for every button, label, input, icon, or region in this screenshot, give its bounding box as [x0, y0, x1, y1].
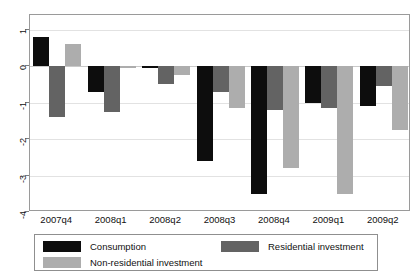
bar-2008q3-series-2	[229, 66, 245, 108]
bar-group-2007q4	[33, 15, 81, 210]
bar-group-2008q1	[88, 15, 136, 210]
bar-2009q1-series-2	[337, 66, 353, 194]
bar-2008q3-series-0	[197, 66, 213, 161]
x-axis-label-2009q2: 2009q2	[367, 214, 399, 225]
y-axis-label-0: 0	[19, 65, 28, 70]
bar-2007q4-series-2	[65, 44, 81, 66]
legend-item-consumption: Consumption	[43, 239, 146, 253]
bar-2009q2-series-2	[392, 66, 408, 130]
bar-2007q4-series-0	[33, 37, 49, 66]
bar-2007q4-series-1	[49, 66, 65, 117]
plot-area	[29, 14, 410, 211]
bar-2008q2-series-2	[174, 66, 190, 75]
bar-2008q1-series-0	[88, 66, 104, 92]
bar-2009q2-series-1	[376, 66, 392, 86]
bar-2008q2-series-1	[158, 66, 174, 84]
legend-label-non-residential-investment: Non-residential investment	[90, 257, 202, 268]
x-axis-label-2008q2: 2008q2	[149, 214, 181, 225]
legend-swatch-consumption	[43, 241, 81, 252]
bar-group-2008q4	[251, 15, 299, 210]
bar-2008q1-series-2	[120, 66, 136, 68]
x-axis-label-2008q4: 2008q4	[258, 214, 290, 225]
x-axis-label-2008q1: 2008q1	[95, 214, 127, 225]
y-axis-label-1: 1	[19, 29, 28, 34]
bar-2008q4-series-1	[267, 66, 283, 110]
y-axis-label--3: -3	[19, 175, 28, 183]
bar-group-2008q2	[142, 15, 190, 210]
y-axis-label--4: -4	[19, 211, 28, 219]
bar-group-2009q2	[360, 15, 408, 210]
x-axis-label-2009q1: 2009q1	[312, 214, 344, 225]
legend-swatch-non-residential-investment	[43, 257, 81, 268]
bar-group-2009q1	[305, 15, 353, 210]
bar-2008q4-series-2	[283, 66, 299, 168]
bar-2008q4-series-0	[251, 66, 267, 194]
x-axis-label-2008q3: 2008q3	[204, 214, 236, 225]
bar-2009q2-series-0	[360, 66, 376, 106]
chart-legend: Consumption Residential investment Non-r…	[34, 234, 378, 271]
bar-2008q1-series-1	[104, 66, 120, 112]
bar-2009q1-series-1	[321, 66, 337, 108]
bar-2009q1-series-0	[305, 66, 321, 102]
bar-group-2008q3	[197, 15, 245, 210]
legend-item-non-residential-investment: Non-residential investment	[43, 255, 202, 269]
y-axis-label--2: -2	[19, 138, 28, 146]
bar-2008q3-series-1	[213, 66, 229, 92]
legend-label-consumption: Consumption	[90, 241, 146, 252]
legend-swatch-residential-investment	[221, 241, 259, 252]
legend-label-residential-investment: Residential investment	[268, 241, 364, 252]
bar-chart-figure: 10-1-2-3-4 2007q42008q12008q22008q32008q…	[0, 0, 416, 280]
y-axis: 10-1-2-3-4	[0, 0, 29, 225]
legend-item-residential-investment: Residential investment	[221, 239, 364, 253]
x-axis: 2007q42008q12008q22008q32008q42009q12009…	[29, 212, 410, 228]
x-axis-label-2007q4: 2007q4	[40, 214, 72, 225]
bar-2008q2-series-0	[142, 66, 158, 68]
y-axis-label--1: -1	[19, 102, 28, 110]
